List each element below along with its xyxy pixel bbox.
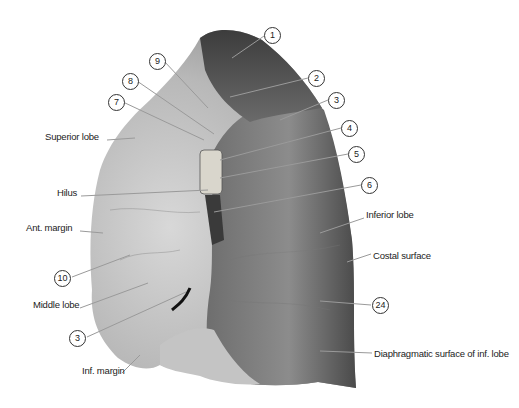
label-superior-lobe: Superior lobe	[45, 131, 99, 142]
callout-2: 2	[308, 70, 325, 87]
label-hilus: Hilus	[57, 187, 77, 198]
lung-anatomy-figure: Superior lobe Hilus Ant. margin Middle l…	[0, 0, 519, 408]
callout-9: 9	[149, 53, 166, 70]
label-diaphragmatic-surface: Diaphragmatic surface of inf. lobe	[374, 348, 509, 359]
label-ant-margin: Ant. margin	[26, 222, 72, 233]
callout-10: 10	[54, 270, 71, 287]
callout-3-lower: 3	[69, 330, 86, 347]
bronchus	[200, 150, 222, 194]
callout-6: 6	[361, 177, 378, 194]
callout-7: 7	[108, 94, 125, 111]
callout-5: 5	[348, 146, 365, 163]
label-costal-surface: Costal surface	[373, 250, 431, 261]
label-inf-margin: Inf. margin	[82, 365, 125, 376]
label-middle-lobe: Middle lobe	[33, 299, 79, 310]
callout-8: 8	[122, 73, 139, 90]
label-inferior-lobe: Inferior lobe	[366, 209, 414, 220]
inferior-lobe-region	[207, 101, 356, 388]
callout-1: 1	[264, 27, 281, 44]
callout-4: 4	[341, 120, 358, 137]
callout-3-upper: 3	[328, 92, 345, 109]
callout-24: 24	[372, 297, 389, 314]
